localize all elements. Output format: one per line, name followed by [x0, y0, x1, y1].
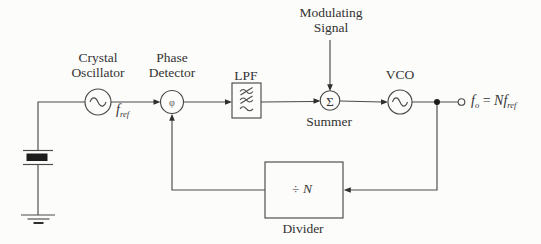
phase-detector-label: Phase Detector: [149, 50, 195, 80]
divider-label: Divider: [282, 221, 323, 236]
phase-detector-label-line1: Phase: [149, 50, 195, 65]
modulating-signal-label-line2: Signal: [300, 20, 363, 35]
arrowhead-into-phase-detector: [154, 99, 161, 105]
crystal-oscillator-label-line2: Oscillator: [71, 65, 124, 80]
modulating-signal-label-line1: Modulating: [300, 5, 363, 20]
junction-dot: [434, 99, 440, 105]
divider-symbol: ÷ N: [292, 182, 312, 196]
crystal-oscillator-label-line1: Crystal: [71, 50, 124, 65]
output-frequency-label: fo = Nfref: [471, 93, 516, 113]
f-ref-label: fref: [116, 102, 129, 122]
wire-divider-to-phase: [172, 121, 265, 191]
wire-summer-to-vco: [340, 101, 382, 102]
wire-lpf-to-summer: [261, 102, 315, 103]
arrowhead-into-divider: [344, 187, 351, 193]
output-n: N: [494, 93, 503, 108]
crystal-oscillator-block: [85, 89, 111, 115]
vco-label: VCO: [386, 67, 415, 82]
diagram-canvas: Crystal Oscillator Phase Detector LPF Mo…: [0, 0, 541, 244]
summer-sigma-symbol: Σ: [326, 95, 334, 108]
phase-detector-label-line2: Detector: [149, 65, 195, 80]
quartz-crystal-icon: [23, 151, 53, 165]
wire-output-to-divider: [351, 102, 438, 190]
arrowhead-into-summer-left: [314, 98, 321, 104]
lpf-block: [232, 83, 261, 118]
arrowhead-into-phase-detector-bottom: [169, 114, 175, 121]
lpf-label: LPF: [234, 68, 257, 83]
summer-label: Summer: [306, 114, 352, 129]
crystal-body: [27, 154, 48, 162]
vco-block: [388, 90, 412, 114]
arrowhead-into-vco: [381, 99, 388, 105]
output-equals: =: [479, 93, 494, 108]
modulating-signal-label: Modulating Signal: [300, 5, 363, 35]
ground-icon: [21, 215, 55, 223]
divider-symbol-variable: N: [303, 181, 312, 196]
arrowhead-into-lpf: [225, 99, 232, 105]
crystal-oscillator-label: Crystal Oscillator: [71, 50, 124, 80]
wire-crystal-branch: [38, 102, 85, 150]
phase-detector-phi-symbol: φ: [169, 98, 175, 108]
f-ref-subscript: ref: [120, 109, 129, 119]
divider-symbol-op: ÷: [292, 181, 303, 196]
output-f2-subscript: ref: [507, 100, 516, 110]
output-terminal-icon: [458, 99, 465, 106]
diagram-svg: [0, 0, 541, 244]
